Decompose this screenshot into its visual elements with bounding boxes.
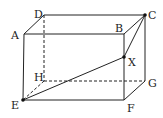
prism-diagram: A D B C X H G E F (0, 0, 163, 118)
label-h: H (34, 71, 44, 84)
segment-xc (124, 15, 145, 57)
point-c (143, 13, 147, 17)
label-x: X (128, 56, 136, 69)
point-e (21, 98, 25, 102)
label-b: B (115, 22, 123, 35)
edge-fg (124, 81, 145, 100)
label-a: A (10, 29, 20, 42)
label-e: E (11, 99, 19, 112)
label-d: D (34, 8, 43, 21)
label-g: G (148, 77, 157, 90)
edge-bc (124, 15, 145, 34)
edge-ae (23, 34, 24, 100)
label-c: C (148, 9, 156, 22)
label-f: F (127, 102, 135, 115)
point-x (122, 55, 126, 59)
